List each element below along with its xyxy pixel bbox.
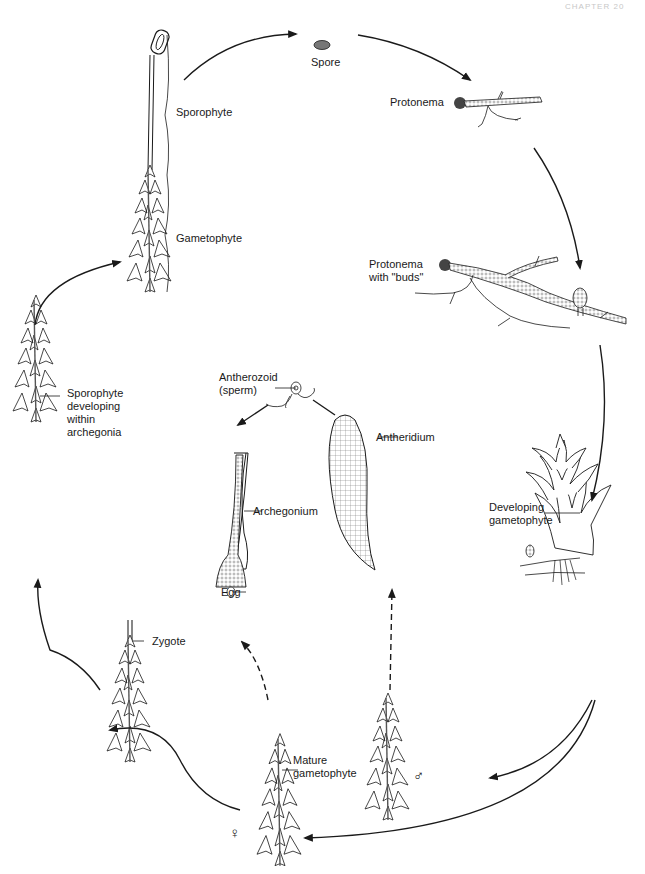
male-symbol: ♂	[413, 768, 424, 783]
label-sporophyte-developing: Sporophyte developing within archegonia	[67, 387, 123, 439]
dashed-arrow-male-to-antheridium	[390, 590, 392, 690]
mature-sporophyte-plant	[127, 28, 171, 292]
dashed-arrow-female-to-archegonium	[242, 642, 268, 700]
arrow-zygote-to-developing-sporophyte	[38, 580, 100, 690]
label-mature-gametophyte: Mature gametophyte	[293, 754, 357, 780]
moss-life-cycle-diagram: CHAPTER 20	[0, 0, 645, 874]
female-symbol: ♀	[229, 825, 240, 840]
archegonium-drawing	[216, 453, 248, 597]
label-developing-gametophyte: Developing gametophyte	[489, 501, 553, 527]
arrow-protonema-to-buds	[534, 148, 580, 268]
label-protonema-with-buds: Protonema with "buds"	[369, 258, 423, 284]
arrow-buds-to-developing	[592, 345, 605, 500]
label-spore: Spore	[311, 56, 340, 69]
sporophyte-developing-plant	[13, 295, 57, 422]
zygote-plant	[107, 620, 151, 762]
arrow-developing-to-male	[490, 700, 592, 778]
spore-shape	[314, 41, 330, 50]
arrow-developing-to-mature-sporophyte	[35, 262, 120, 325]
label-archegonium: Archegonium	[253, 505, 318, 518]
label-gametophyte: Gametophyte	[176, 232, 242, 245]
arrow-sporophyte-to-spore	[184, 34, 296, 80]
protonema-drawing	[454, 91, 542, 127]
line-antheridium-to-antherozoid	[313, 400, 335, 415]
label-antherozoid: Antherozoid (sperm)	[219, 371, 278, 397]
arrow-spore-to-protonema	[358, 35, 470, 80]
label-protonema: Protonema	[390, 96, 444, 109]
protonema-with-buds-drawing	[415, 256, 626, 328]
arrow-antherozoid-to-archegonium	[238, 405, 268, 425]
male-gametophyte-plant	[365, 693, 409, 820]
label-antheridium: Antheridium	[376, 431, 435, 444]
label-egg: Egg	[221, 586, 241, 599]
label-sporophyte: Sporophyte	[176, 106, 232, 119]
label-zygote: Zygote	[152, 635, 186, 648]
antheridium-drawing	[329, 415, 375, 570]
